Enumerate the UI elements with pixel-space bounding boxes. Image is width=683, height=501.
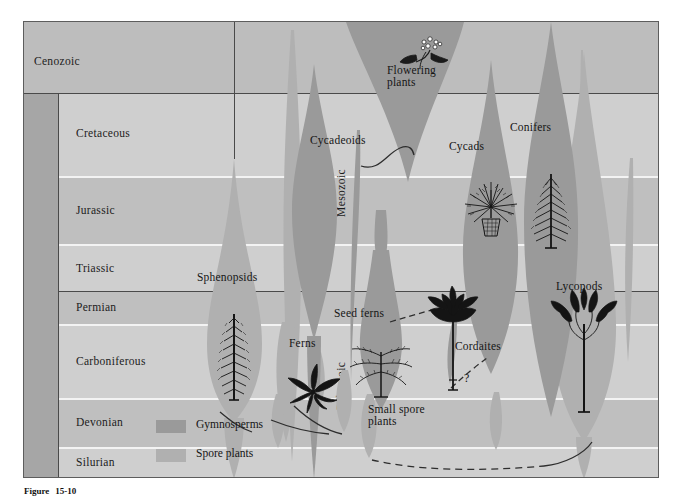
label-cordaites: Cordaites — [455, 340, 501, 352]
seed-fern-drawing — [350, 346, 412, 397]
legend-label-gymnosperms: Gymnosperms — [196, 418, 263, 430]
annotation-question-mark: ? — [464, 371, 469, 385]
label-cycadeoids: Cycadeoids — [310, 134, 366, 146]
label-lycopods: Lycopods — [556, 280, 602, 292]
figure-caption-number: 15-10 — [55, 486, 76, 496]
legend-label-spore-plants: Spore plants — [196, 447, 253, 459]
label-cycads: Cycads — [449, 140, 484, 152]
legend-swatch-gymnosperms — [156, 420, 186, 433]
label-flowering-plants: Flowering plants — [387, 64, 465, 88]
label-small-spore-plants: Small spore plants — [368, 403, 446, 427]
chart-frame: Mesozoic Paleozoic Cenozoic Cretaceous J… — [23, 21, 659, 478]
range-flowering-plants — [346, 22, 464, 182]
figure-caption: Figure15-10 — [24, 486, 76, 496]
range-small-spore-5 — [490, 392, 502, 450]
range-seed-ferns-upper — [375, 210, 388, 254]
label-conifers: Conifers — [510, 121, 551, 133]
range-gymno-spike — [350, 130, 360, 382]
taxon-ranges: ? — [24, 22, 659, 478]
range-spore-far-right — [625, 158, 633, 362]
legend-swatch-spore-plants — [156, 449, 186, 462]
link-base-dashed — [372, 460, 544, 469]
figure-root: Mesozoic Paleozoic Cenozoic Cretaceous J… — [0, 0, 683, 501]
cordaites-drawing — [428, 286, 478, 390]
figure-caption-label: Figure — [24, 486, 49, 496]
label-ferns: Ferns — [289, 337, 316, 349]
label-seed-ferns: Seed ferns — [334, 307, 384, 319]
range-lycopods-tail — [576, 437, 592, 478]
label-sphenopsids: Sphenopsids — [197, 271, 257, 283]
